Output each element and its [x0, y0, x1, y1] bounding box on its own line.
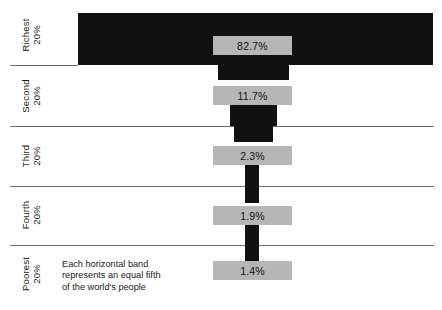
- chart-annotation-line-1: Each horizontal band: [62, 259, 222, 270]
- funnel-segment-second: [230, 104, 277, 126]
- category-label-second: Second 20%: [0, 85, 62, 119]
- category-label-third-name: Third: [20, 145, 31, 168]
- value-box-third: 2.3%: [213, 146, 292, 165]
- funnel-segment-fourth: [245, 225, 259, 245]
- category-label-fourth-pct: 20%: [31, 201, 42, 230]
- row-separator-fourth: [10, 245, 434, 246]
- chart-annotation-line-3: of the world's people: [62, 282, 222, 293]
- funnel-segment-third-taper: [245, 186, 259, 203]
- category-label-richest: Richest 20%: [0, 24, 62, 58]
- chart-annotation: Each horizontal band represents an equal…: [62, 259, 222, 293]
- value-box-richest: 82.7%: [213, 36, 292, 55]
- chart-annotation-line-2: represents an equal fifth: [62, 270, 222, 281]
- category-label-richest-name: Richest: [20, 18, 31, 51]
- category-label-fourth-name: Fourth: [20, 201, 31, 230]
- funnel-segment-poorest: [245, 245, 259, 261]
- funnel-segment-third: [245, 165, 259, 186]
- category-label-richest-pct: 20%: [31, 18, 42, 51]
- row-separator-second: [10, 126, 434, 127]
- funnel-segment-second-taper: [234, 126, 273, 142]
- row-separator-third: [10, 186, 434, 187]
- category-label-poorest-pct: 20%: [31, 257, 42, 291]
- category-label-second-pct: 20%: [31, 79, 42, 112]
- row-separator-richest: [10, 65, 78, 66]
- value-box-second: 11.7%: [213, 86, 292, 105]
- value-box-poorest: 1.4%: [213, 261, 292, 280]
- value-box-fourth: 1.9%: [213, 206, 292, 225]
- category-label-third: Third 20%: [0, 145, 62, 179]
- income-distribution-funnel-chart: Richest 20% Second 20% Third 20% Fourth …: [0, 0, 442, 310]
- funnel-segment-richest-taper: [218, 65, 289, 80]
- category-label-poorest-name: Poorest: [20, 257, 31, 291]
- category-label-poorest: Poorest 20%: [0, 263, 62, 297]
- category-label-third-pct: 20%: [31, 145, 42, 168]
- category-label-fourth: Fourth 20%: [0, 204, 62, 238]
- clipped-top-text: [0, 0, 442, 5]
- category-label-second-name: Second: [20, 79, 31, 112]
